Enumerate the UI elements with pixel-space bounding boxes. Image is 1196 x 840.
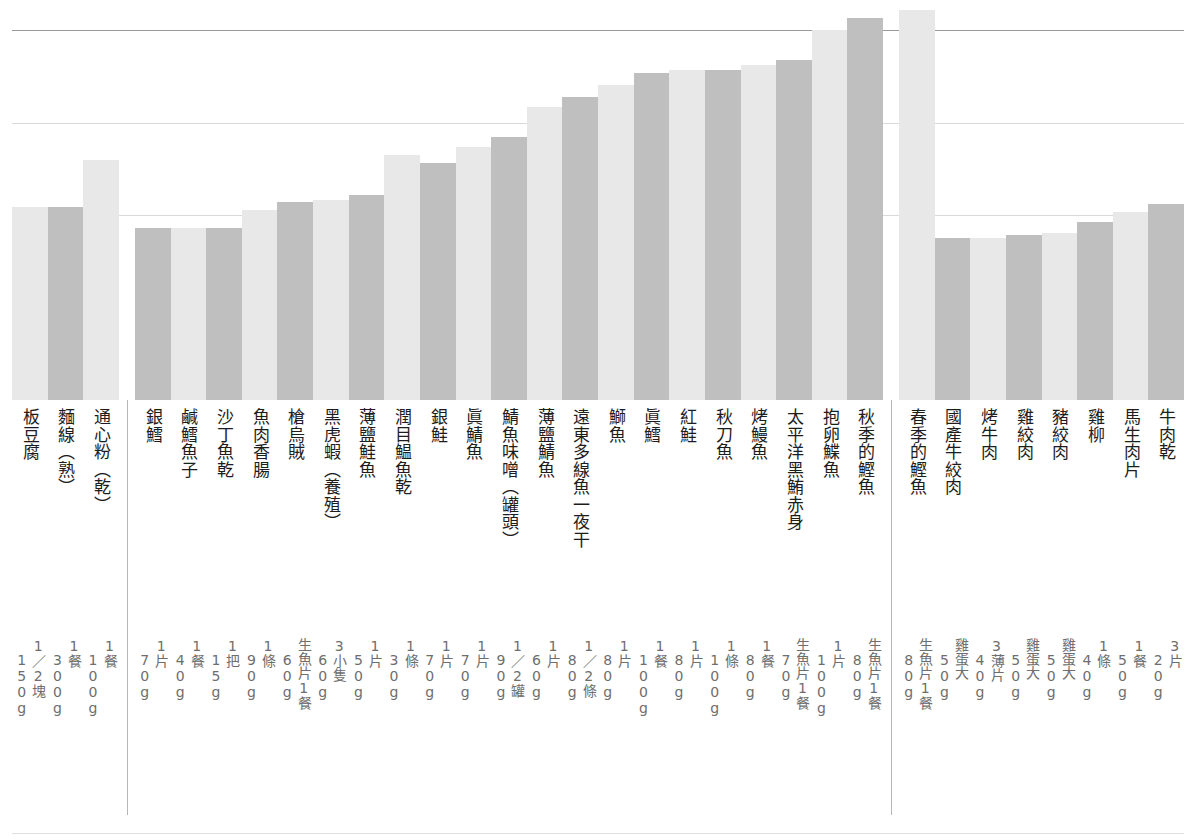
bar-slot[interactable] (899, 0, 935, 400)
serving-line: 100g (813, 652, 830, 820)
bar[interactable] (527, 107, 563, 400)
group-separator-2 (891, 400, 892, 815)
serving-size: 1條90g (243, 638, 276, 820)
bar[interactable] (491, 137, 527, 400)
bar-slot[interactable] (384, 0, 420, 400)
bar-slot[interactable] (705, 0, 741, 400)
category-name: 牛肉乾 (1157, 408, 1176, 620)
category-label: 眞鱈1餐100g (634, 400, 670, 820)
bar-slot[interactable] (847, 0, 883, 400)
bar[interactable] (899, 10, 935, 400)
bar-slot[interactable] (277, 0, 313, 400)
bar[interactable] (634, 73, 670, 400)
category-name: 通心粉（乾） (92, 408, 111, 620)
bar[interactable] (242, 210, 278, 400)
bar-slot[interactable] (135, 0, 171, 400)
bar[interactable] (206, 228, 242, 400)
bar-slot[interactable] (812, 0, 848, 400)
bar[interactable] (741, 65, 777, 400)
bar[interactable] (1042, 233, 1078, 400)
serving-line: 40g (1078, 652, 1095, 820)
bar-slot[interactable] (598, 0, 634, 400)
bar-slot[interactable] (206, 0, 242, 400)
serving-line: 100g (706, 652, 723, 820)
bar[interactable] (12, 207, 48, 400)
bar[interactable] (847, 18, 883, 400)
bar[interactable] (349, 195, 385, 400)
bar-slot[interactable] (1006, 0, 1042, 400)
bar[interactable] (598, 85, 634, 400)
bar-slot[interactable] (456, 0, 492, 400)
bar[interactable] (812, 30, 848, 400)
bar-slot[interactable] (970, 0, 1006, 400)
serving-line: 70g (421, 652, 438, 820)
bar-slot[interactable] (491, 0, 527, 400)
bar[interactable] (313, 200, 349, 400)
bar[interactable] (171, 228, 207, 400)
serving-size: 1條30g (386, 638, 419, 820)
bar[interactable] (456, 147, 492, 400)
bar[interactable] (1077, 222, 1113, 400)
bar[interactable] (1113, 212, 1149, 400)
bar[interactable] (1148, 204, 1184, 400)
serving-line: 1餐 (65, 638, 82, 820)
serving-line: 1條 (260, 638, 277, 820)
bar-slot[interactable] (776, 0, 812, 400)
bar-slot[interactable] (527, 0, 563, 400)
bar-slot[interactable] (669, 0, 705, 400)
bar[interactable] (277, 202, 313, 400)
bar[interactable] (970, 238, 1006, 400)
bar-slot[interactable] (562, 0, 598, 400)
bar-slot[interactable] (83, 0, 119, 400)
serving-size: 生魚片1餐70g (777, 638, 810, 820)
bar[interactable] (135, 228, 171, 400)
bar-slot[interactable] (242, 0, 278, 400)
bar[interactable] (562, 97, 598, 400)
category-label: 牛肉乾3片20g (1148, 400, 1184, 820)
bar[interactable] (384, 155, 420, 400)
serving-line: 1餐 (101, 638, 118, 820)
category-label: 板豆腐1／2塊150g (12, 400, 48, 820)
bar-slot[interactable] (1148, 0, 1184, 400)
bar[interactable] (420, 163, 456, 400)
serving-line: 3片 (1166, 638, 1183, 820)
category-name: 薄鹽鯖魚 (535, 408, 554, 620)
bar[interactable] (669, 70, 705, 400)
serving-size: 1／2條80g (564, 638, 597, 820)
category-label: 銀鮭1片70g (420, 400, 456, 820)
bar-slot[interactable] (741, 0, 777, 400)
serving-line: 100g (85, 652, 102, 820)
serving-line: 50g (1114, 652, 1131, 820)
bar-slot[interactable] (171, 0, 207, 400)
serving-line: 1片 (830, 638, 847, 820)
bar-slot[interactable] (12, 0, 48, 400)
bar[interactable] (48, 207, 84, 400)
chart-root: 板豆腐1／2塊150g麵線（熟）1餐300g通心粉（乾）1餐100g銀鱈1片70… (0, 0, 1196, 840)
bar[interactable] (1006, 235, 1042, 400)
bar-slot[interactable] (1042, 0, 1078, 400)
bar-slot[interactable] (1077, 0, 1113, 400)
bar[interactable] (83, 160, 119, 400)
serving-line: 1片 (687, 638, 704, 820)
bar-slot[interactable] (1113, 0, 1149, 400)
category-name: 沙丁魚乾 (214, 408, 233, 620)
serving-line: 60g (528, 652, 545, 820)
bar[interactable] (935, 238, 971, 400)
bar-slot[interactable] (634, 0, 670, 400)
serving-line: 50g (350, 652, 367, 820)
bar-slot[interactable] (48, 0, 84, 400)
bar-slot[interactable] (349, 0, 385, 400)
serving-size: 1條40g (1078, 638, 1111, 820)
serving-size: 雞蛋大50g (1043, 638, 1076, 820)
bar[interactable] (776, 60, 812, 400)
bar-slot[interactable] (420, 0, 456, 400)
bar-slot[interactable] (935, 0, 971, 400)
serving-line: 150g (13, 652, 30, 820)
serving-line: 1餐 (651, 638, 668, 820)
serving-line: 雞蛋大 (1024, 638, 1041, 820)
serving-line: 1片 (473, 638, 490, 820)
category-label-row: 板豆腐1／2塊150g麵線（熟）1餐300g通心粉（乾）1餐100g銀鱈1片70… (12, 400, 1184, 820)
bar-slot[interactable] (313, 0, 349, 400)
serving-line: 90g (243, 652, 260, 820)
bar[interactable] (705, 70, 741, 400)
